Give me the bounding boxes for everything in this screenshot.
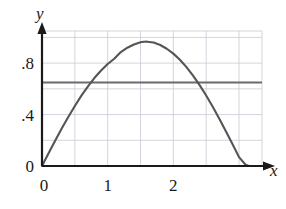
y-tick-label-2: .8 bbox=[21, 54, 34, 73]
y-tick-label-1: .4 bbox=[21, 106, 34, 125]
x-tick-label-origin: 0 bbox=[40, 176, 49, 195]
figure-container: y x 0.4.8 120 bbox=[0, 0, 286, 209]
x-tick-label-1: 1 bbox=[103, 176, 112, 195]
chart-plot: y x 0.4.8 120 bbox=[0, 0, 286, 209]
y-tick-label-0: 0 bbox=[26, 157, 35, 176]
x-axis-label: x bbox=[269, 161, 278, 180]
y-axis-label: y bbox=[34, 4, 44, 23]
x-tick-label-2: 2 bbox=[169, 176, 178, 195]
